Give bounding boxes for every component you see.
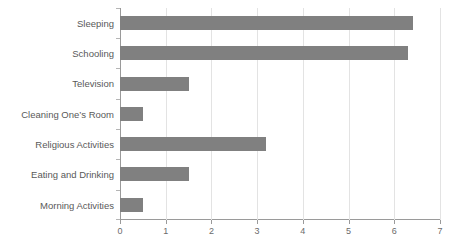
x-axis-tick: [257, 220, 258, 224]
x-axis-tick: [303, 220, 304, 224]
x-axis-tick-label: 6: [384, 226, 404, 237]
x-axis-tick-label: 2: [201, 226, 221, 237]
gridline: [211, 8, 212, 220]
x-axis-tick: [211, 220, 212, 224]
bar-eating-and-drinking: [120, 167, 189, 181]
bar-chart: Sleeping Schooling Television Cleaning O…: [0, 0, 449, 246]
category-label: Religious Activities: [0, 139, 114, 151]
x-axis-tick-label: 1: [156, 226, 176, 237]
category-label: Eating and Drinking: [0, 169, 114, 181]
gridline: [349, 8, 350, 220]
plot-area: [120, 8, 440, 220]
x-axis-tick-label: 0: [110, 226, 130, 237]
category-label: Morning Activities: [0, 200, 114, 212]
bar-schooling: [120, 46, 408, 60]
x-axis-tick: [440, 220, 441, 224]
category-label: Schooling: [0, 48, 114, 60]
x-axis-tick-label: 7: [430, 226, 449, 237]
category-label: Sleeping: [0, 18, 114, 30]
bar-religious-activities: [120, 137, 266, 151]
x-axis-tick-label: 3: [247, 226, 267, 237]
category-label: Television: [0, 78, 114, 90]
bar-television: [120, 77, 189, 91]
x-axis-tick: [394, 220, 395, 224]
gridline: [440, 8, 441, 220]
x-axis-tick-label: 5: [339, 226, 359, 237]
gridline: [303, 8, 304, 220]
gridline: [257, 8, 258, 220]
bar-sleeping: [120, 16, 413, 30]
category-axis-labels: Sleeping Schooling Television Cleaning O…: [0, 8, 114, 220]
bar-cleaning-ones-room: [120, 107, 143, 121]
bar-morning-activities: [120, 198, 143, 212]
gridline: [166, 8, 167, 220]
x-axis-tick-label: 4: [293, 226, 313, 237]
x-axis-tick: [166, 220, 167, 224]
x-axis-tick: [349, 220, 350, 224]
gridline: [394, 8, 395, 220]
category-label: Cleaning One’s Room: [0, 109, 114, 121]
x-axis-tick: [120, 220, 121, 224]
